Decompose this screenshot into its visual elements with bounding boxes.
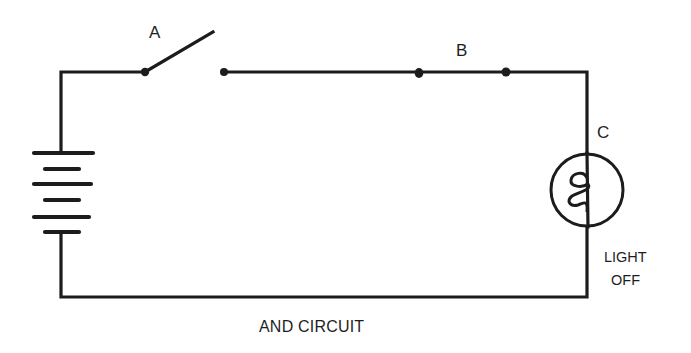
- lamp-icon: [551, 153, 623, 227]
- label-b: B: [456, 41, 467, 60]
- battery-icon: [34, 153, 93, 232]
- label-c: C: [597, 123, 609, 142]
- circuit-wires: [61, 72, 587, 297]
- contact-node-left: [415, 68, 424, 78]
- switch-contact-node: [220, 68, 228, 76]
- lamp-status-line1: LIGHT: [604, 249, 647, 265]
- lamp-status-line2: OFF: [611, 272, 640, 288]
- wire-left-top: [61, 72, 145, 153]
- diagram-caption: AND CIRCUIT: [259, 318, 364, 335]
- wire-top-right: [224, 72, 587, 153]
- contact-node-right: [502, 68, 511, 77]
- label-a: A: [149, 23, 161, 42]
- and-circuit-diagram: A B C LIGHT OFF AND CIRCUIT: [0, 0, 691, 353]
- wire-bottom: [61, 227, 587, 297]
